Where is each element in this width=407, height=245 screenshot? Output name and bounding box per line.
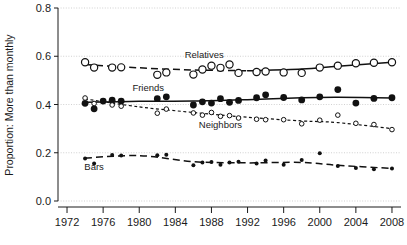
data-point [217, 64, 224, 71]
data-point [316, 93, 323, 100]
data-point [163, 93, 170, 100]
data-point [316, 64, 323, 71]
series-label-relatives: Relatives [185, 49, 224, 60]
data-point [200, 160, 204, 164]
data-point [263, 117, 268, 122]
x-tick-label-2008: 2008 [380, 216, 404, 228]
data-point [390, 166, 394, 170]
x-tick-label-1976: 1976 [91, 216, 115, 228]
data-point [163, 69, 170, 76]
data-point [200, 113, 205, 118]
data-point [228, 160, 232, 164]
data-point [218, 163, 222, 167]
data-point [190, 71, 197, 78]
data-point [164, 153, 168, 157]
data-point [281, 117, 286, 122]
x-tick-label-1996: 1996 [271, 216, 295, 228]
data-point [253, 68, 260, 75]
x-tick-label-1992: 1992 [235, 216, 259, 228]
x-axis-ticks: 1972197619801984198819921996200020042008 [55, 207, 404, 228]
data-series [81, 59, 395, 171]
data-point [235, 69, 242, 76]
series-friends [82, 86, 396, 112]
social-contact-trends-chart: 0.00.20.40.60.8 197219761980198419881992… [0, 0, 407, 245]
data-point [371, 95, 378, 102]
data-point [300, 158, 304, 162]
data-point [190, 102, 197, 109]
data-point [317, 118, 322, 123]
data-point [217, 95, 224, 102]
y-tick-label-0.4: 0.4 [36, 99, 51, 111]
data-point [262, 91, 269, 98]
chart-container: 0.00.20.40.60.8 197219761980198419881992… [0, 0, 407, 245]
data-point [191, 111, 196, 116]
data-point [118, 64, 125, 71]
data-point [237, 160, 241, 164]
data-point [352, 60, 359, 67]
x-tick-label-1984: 1984 [163, 216, 187, 228]
data-point [354, 166, 358, 170]
data-point [226, 61, 233, 68]
data-point [209, 160, 213, 164]
y-tick-label-0.8: 0.8 [36, 2, 51, 14]
data-point [280, 69, 287, 76]
data-point [253, 94, 260, 101]
data-point [110, 103, 115, 108]
data-point [164, 107, 169, 112]
data-point [208, 100, 215, 107]
data-point [389, 94, 396, 101]
y-tick-label-0.2: 0.2 [36, 147, 51, 159]
data-point [334, 86, 341, 93]
data-point [155, 153, 159, 157]
data-point [81, 59, 88, 66]
series-bars [83, 151, 394, 171]
data-point [299, 122, 304, 127]
data-point [372, 167, 376, 171]
series-label-friends: Friends [132, 82, 164, 93]
axes [58, 8, 401, 207]
data-point [235, 97, 242, 104]
x-tick-label-2004: 2004 [344, 216, 368, 228]
x-tick-label-1988: 1988 [199, 216, 223, 228]
data-point [298, 97, 305, 104]
data-point [119, 153, 123, 157]
data-point [119, 104, 124, 109]
data-point [92, 101, 97, 106]
data-point [82, 100, 89, 107]
data-point [191, 163, 195, 167]
data-point [199, 66, 206, 73]
series-label-neighbors: Neighbors [199, 119, 243, 130]
data-point [354, 121, 359, 126]
x-tick-label-2000: 2000 [308, 216, 332, 228]
data-point [352, 100, 359, 107]
data-point [262, 68, 269, 75]
data-point [334, 62, 341, 69]
data-point [199, 98, 206, 105]
data-point [388, 59, 395, 66]
series-label-bars: Bars [84, 161, 104, 172]
y-axis-title: Proportion: More than monthly [3, 34, 15, 176]
data-point [255, 162, 259, 166]
data-point [226, 99, 233, 106]
x-tick-label-1972: 1972 [55, 216, 79, 228]
data-point [318, 151, 322, 155]
data-point [208, 62, 215, 69]
data-point [154, 95, 161, 102]
data-point [280, 94, 287, 101]
data-point [227, 113, 232, 118]
data-point [154, 71, 161, 78]
data-point [298, 69, 305, 76]
caption-strip [0, 237, 407, 245]
x-tick-label-1980: 1980 [127, 216, 151, 228]
data-point [110, 153, 114, 157]
series-relatives [81, 59, 395, 79]
data-point [390, 127, 395, 132]
data-point [91, 105, 98, 112]
data-point [83, 96, 88, 101]
data-point [336, 113, 341, 118]
data-point [370, 59, 377, 66]
y-tick-label-0.6: 0.6 [36, 50, 51, 62]
data-point [282, 163, 286, 167]
data-point [264, 158, 268, 162]
data-point [83, 157, 87, 161]
